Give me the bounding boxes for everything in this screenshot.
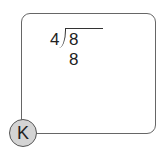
answer-card <box>21 13 156 134</box>
grade-badge: K <box>9 119 37 147</box>
division-bar <box>66 28 103 29</box>
dividend: 8 8 <box>69 30 81 70</box>
